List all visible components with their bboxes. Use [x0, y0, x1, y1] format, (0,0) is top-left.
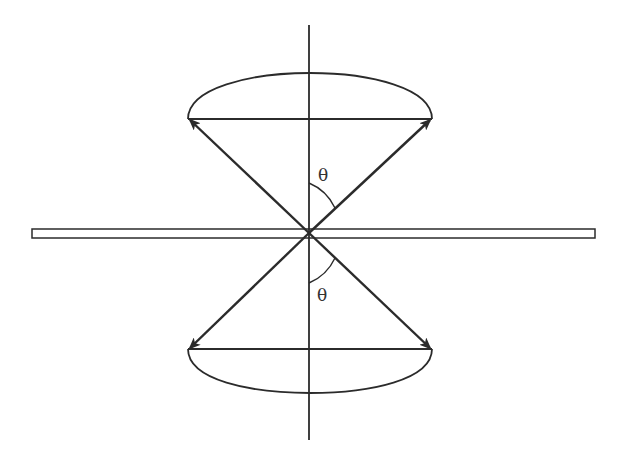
- arrow-lower-left: [190, 233, 309, 348]
- theta-arc-bottom: [309, 258, 335, 283]
- cone-diagram: θ θ: [0, 0, 620, 460]
- upper-cone: [188, 73, 432, 119]
- theta-label-bottom: θ: [317, 285, 327, 305]
- arrow-upper-left: [190, 120, 309, 233]
- theta-arc-top: [309, 183, 335, 208]
- lower-cone: [188, 349, 432, 393]
- lower-arc: [188, 349, 432, 393]
- theta-label-top: θ: [318, 165, 328, 185]
- upper-arc: [188, 73, 432, 119]
